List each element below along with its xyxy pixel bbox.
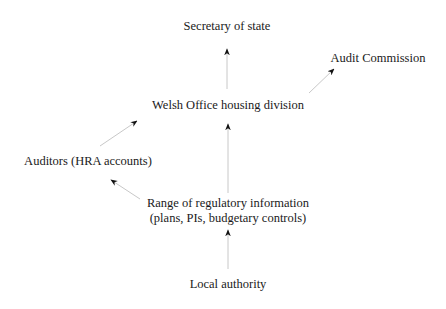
node-audit-commission: Audit Commission xyxy=(326,51,430,66)
node-range-of-regulatory-information: Range of regulatory information (plans, … xyxy=(138,196,318,226)
range-line-1: Range of regulatory information xyxy=(138,196,318,211)
arrow-auditors-to-welsh xyxy=(100,121,137,146)
arrow-welsh-to-audit-commission xyxy=(309,69,334,93)
node-secretary-of-state: Secretary of state xyxy=(167,19,287,34)
node-welsh-office-housing-division: Welsh Office housing division xyxy=(140,98,316,113)
node-auditors-hra-accounts: Auditors (HRA accounts) xyxy=(18,154,158,169)
arrow-range-to-auditors xyxy=(111,180,140,199)
range-line-2: (plans, PIs, budgetary controls) xyxy=(138,211,318,226)
node-local-authority: Local authority xyxy=(178,277,278,292)
